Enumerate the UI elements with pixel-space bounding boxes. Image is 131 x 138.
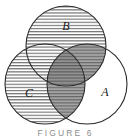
venn-diagram-svg: B C A: [0, 0, 131, 138]
set-label-c: C: [25, 86, 34, 100]
venn-diagram-figure: B C A FIGURE 6: [0, 0, 131, 138]
set-label-b: B: [62, 19, 70, 33]
set-label-a: A: [100, 85, 109, 99]
figure-caption: FIGURE 6: [0, 128, 131, 138]
